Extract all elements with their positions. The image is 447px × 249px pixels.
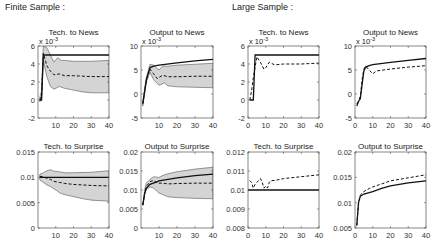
x-tick-label: 40 xyxy=(209,121,217,130)
true-line xyxy=(250,55,319,100)
x-tick-label: 0 xyxy=(246,121,250,130)
x-tick-label: 30 xyxy=(404,121,412,130)
large-output-news-panel: -50510010203040Output to Newsx 10-3 xyxy=(344,28,431,130)
x-tick-label: 30 xyxy=(404,231,412,240)
chart-title: Tech. to Surprise xyxy=(253,142,314,151)
y-tick-label: 0.009 xyxy=(226,205,245,214)
y-tick-label: -2 xyxy=(238,114,245,123)
y-tick-label: 0 xyxy=(134,224,138,233)
y-tick-label: 0.02 xyxy=(337,148,352,157)
y-tick-label: 6 xyxy=(31,42,35,51)
x-tick-label: 20 xyxy=(386,231,394,240)
y-tick-label: 0.005 xyxy=(16,199,35,208)
estimate-line xyxy=(250,175,319,188)
y-tick-label: 2 xyxy=(31,78,35,87)
x-tick-label: 20 xyxy=(279,121,287,130)
x-tick-label: 30 xyxy=(191,121,199,130)
y-tick-label: -2 xyxy=(28,114,35,123)
x-tick-label: 20 xyxy=(386,121,394,130)
y-tick-label: 5 xyxy=(134,66,138,75)
y-tick-label: 2 xyxy=(241,78,245,87)
large-tech-surprise-panel: 0.0080.0090.010.0110.012010203040Tech. t… xyxy=(226,142,323,240)
y-tick-label: 0.005 xyxy=(333,224,352,233)
y-tick-label: 0.005 xyxy=(119,205,138,214)
finite-output-surprise-panel: 00.0050.010.0150.0210203040Output to Sur… xyxy=(119,142,217,240)
y-tick-label: 0 xyxy=(241,96,245,105)
x-tick-label: 30 xyxy=(297,121,305,130)
x-tick-label: 40 xyxy=(422,121,430,130)
estimate-line xyxy=(250,57,319,100)
large-output-surprise-panel: 0.0050.010.0150.02010203040Output to Sur… xyxy=(333,142,430,240)
x-tick-label: 40 xyxy=(105,121,113,130)
chart-title: Output to Surprise xyxy=(358,142,423,151)
x-tick-label: 40 xyxy=(209,231,217,240)
x-tick-label: 30 xyxy=(297,231,305,240)
x-tick-label: 40 xyxy=(105,231,113,240)
chart-title: Output to Surprise xyxy=(145,142,210,151)
true-line xyxy=(357,58,426,106)
x-tick-label: 10 xyxy=(262,121,270,130)
y-tick-label: 0.015 xyxy=(16,148,35,157)
y-tick-label: 0.012 xyxy=(226,148,245,157)
chart-title: Tech. to Surprise xyxy=(43,142,104,151)
y-tick-label: -5 xyxy=(131,114,138,123)
x-tick-label: 0 xyxy=(353,121,357,130)
x-tick-label: 10 xyxy=(52,231,60,240)
x-tick-label: 0 xyxy=(353,231,357,240)
confidence-band xyxy=(143,63,213,106)
x-tick-label: 10 xyxy=(262,231,270,240)
axis-multiplier: x 10-3 xyxy=(39,36,58,46)
x-tick-label: 10 xyxy=(155,121,163,130)
x-tick-label: 20 xyxy=(279,231,287,240)
impulse-response-figure: -2024610203040Tech. to Newsx 10-3-505101… xyxy=(0,0,447,249)
large-tech-news-panel: -20246010203040Tech. to Newsx 10-3 xyxy=(238,28,323,130)
y-tick-label: 0.02 xyxy=(123,148,138,157)
y-tick-label: 4 xyxy=(241,60,245,69)
x-tick-label: 20 xyxy=(69,121,77,130)
estimate-line xyxy=(357,66,426,104)
y-tick-label: 0.01 xyxy=(20,173,35,182)
y-tick-label: 10 xyxy=(344,42,352,51)
y-tick-label: 5 xyxy=(348,66,352,75)
x-tick-label: 20 xyxy=(173,231,181,240)
y-tick-label: 0 xyxy=(134,90,138,99)
true-line xyxy=(357,181,426,226)
axes-box xyxy=(355,46,426,118)
x-tick-label: 20 xyxy=(69,231,77,240)
axis-multiplier: x 10-3 xyxy=(142,36,161,46)
y-tick-label: 0.015 xyxy=(119,167,138,176)
x-tick-label: 30 xyxy=(191,231,199,240)
y-tick-label: 0.008 xyxy=(226,224,245,233)
axis-multiplier: x 10-3 xyxy=(249,36,268,46)
y-tick-label: 10 xyxy=(130,42,138,51)
x-tick-label: 20 xyxy=(173,121,181,130)
x-tick-label: 30 xyxy=(87,231,95,240)
y-tick-label: 4 xyxy=(31,60,35,69)
confidence-band xyxy=(143,167,213,205)
y-tick-label: 0.01 xyxy=(230,186,245,195)
y-tick-label: 0.015 xyxy=(333,173,352,182)
x-tick-label: 10 xyxy=(155,231,163,240)
x-tick-label: 40 xyxy=(422,231,430,240)
axis-multiplier: x 10-3 xyxy=(356,36,375,46)
y-tick-label: 0 xyxy=(31,96,35,105)
y-tick-label: 0.011 xyxy=(227,167,245,176)
x-tick-label: 10 xyxy=(369,121,377,130)
axes-box xyxy=(248,46,319,118)
x-tick-label: 10 xyxy=(52,121,60,130)
x-tick-label: 10 xyxy=(369,231,377,240)
x-tick-label: 0 xyxy=(246,231,250,240)
x-tick-label: 30 xyxy=(87,121,95,130)
x-tick-label: 40 xyxy=(315,121,323,130)
y-tick-label: 6 xyxy=(241,42,245,51)
y-tick-label: 0 xyxy=(31,224,35,233)
y-tick-label: -5 xyxy=(345,114,352,123)
finite-tech-news-panel: -2024610203040Tech. to Newsx 10-3 xyxy=(28,28,113,130)
y-tick-label: 0.01 xyxy=(337,199,352,208)
finite-output-news-panel: -5051010203040Output to Newsx 10-3 xyxy=(130,28,218,130)
x-tick-label: 40 xyxy=(315,231,323,240)
y-tick-label: 0 xyxy=(348,90,352,99)
finite-tech-surprise-panel: 00.0050.010.01510203040Tech. to Surprise xyxy=(16,142,113,240)
y-tick-label: 0.01 xyxy=(123,186,138,195)
